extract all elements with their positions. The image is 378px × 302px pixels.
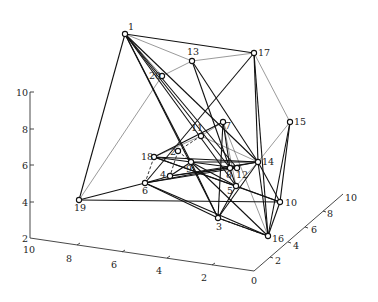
node-label: 3 [216,221,222,232]
edge-17-15 [254,53,290,122]
node-label: 11 [191,122,203,133]
node-1 [122,31,127,36]
edges-solid [79,34,290,236]
node-13 [189,58,194,63]
node-4 [167,173,172,178]
node-label: 6 [142,185,148,196]
edge-1-12 [125,34,237,168]
node-label: 1 [128,21,134,32]
node-3 [215,215,220,220]
edges-thin [79,34,290,236]
node-label: 9 [186,163,192,174]
y-tick: 6 [311,224,317,235]
node-17 [251,50,256,55]
x-tick: 4 [156,265,162,276]
node-5 [233,183,238,188]
node-10 [277,199,282,204]
node-label: 18 [141,151,153,162]
y-tick: 2 [275,255,281,266]
edge-1-5 [125,34,236,186]
node-label: 16 [272,233,284,244]
z-tick: 8 [22,124,28,135]
y-tick: 0 [251,275,257,286]
y-tick: 10 [345,192,357,203]
node-label: 17 [258,47,270,58]
edge-1-19 [79,34,125,200]
x-tick: 6 [111,259,117,270]
z-tick: 2 [22,233,28,244]
edge-17-16 [254,53,268,236]
edge-15-16 [268,122,290,236]
y-tick: 4 [293,240,299,251]
node-label: 20 [149,70,161,81]
edge-19-10 [79,200,280,202]
node-2 [175,148,180,153]
node-label: 12 [236,169,248,180]
node-label: 7 [225,120,231,131]
z-tick: 4 [22,197,28,208]
edge-3-16 [218,218,268,236]
edges-dashed [145,136,268,236]
node-15 [287,119,292,124]
edge-17-14 [254,53,258,162]
node-label: 4 [160,169,166,180]
edge-13-17 [192,53,254,61]
node-14 [255,159,260,164]
nodes: 1131720157112189148124651019316 [74,21,306,244]
y-tick: 8 [327,208,333,219]
network-diagram: 10 8 6 4 2 10 8 6 4 2 0 2 4 6 8 10 11317… [0,0,378,302]
edge-15-10 [280,122,290,202]
edge-1-3 [125,34,218,218]
x-tick: 8 [66,253,72,264]
node-label: 10 [285,197,297,208]
node-label: 13 [187,46,199,57]
x-tick: 10 [23,244,35,255]
node-16 [265,233,270,238]
node-label: 19 [74,202,86,213]
z-tick: 10 [16,87,28,98]
node-label: 5 [227,185,233,196]
edge-14-10 [258,162,280,202]
node-label: 8 [226,169,232,180]
node-label: 15 [294,116,306,127]
node-11 [198,133,203,138]
node-label: 14 [262,156,274,167]
node-label: 2 [170,146,176,157]
edge-5-10 [236,186,280,202]
x-tick: 2 [201,272,207,283]
z-tick: 6 [22,160,28,171]
